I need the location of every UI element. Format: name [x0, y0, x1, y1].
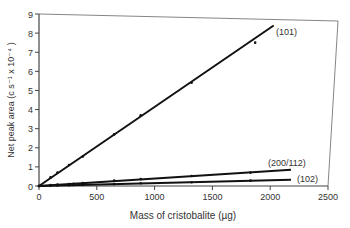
- x-tick-label: 2500: [318, 192, 338, 202]
- data-point: [56, 171, 59, 174]
- y-tick-label: 1: [28, 162, 33, 172]
- data-point: [82, 155, 85, 158]
- x-axis-label: Mass of cristobalite (µg): [130, 210, 236, 221]
- y-tick-label: 7: [28, 48, 33, 58]
- data-point: [113, 179, 116, 182]
- series-label-102: (102): [297, 174, 318, 184]
- y-tick-label: 3: [28, 124, 33, 134]
- x-axis-ticks: 05001000150020002500: [36, 186, 338, 202]
- data-point: [49, 176, 52, 179]
- series-label-200-112: (200/112): [268, 158, 306, 168]
- x-tick-label: 1500: [202, 192, 222, 202]
- series-group: [38, 25, 291, 187]
- data-point: [72, 184, 75, 187]
- data-point: [139, 178, 142, 181]
- data-point: [190, 82, 193, 85]
- data-point: [139, 114, 142, 117]
- data-point: [82, 184, 85, 187]
- data-point: [190, 175, 193, 178]
- data-point: [68, 164, 71, 167]
- data-point: [56, 184, 59, 187]
- data-point: [190, 181, 193, 184]
- right-frame: [328, 21, 338, 186]
- data-point: [254, 41, 257, 44]
- series-label-101: (101): [276, 27, 297, 37]
- data-point: [113, 183, 116, 186]
- top-frame: [39, 14, 338, 21]
- data-point: [68, 184, 71, 187]
- data-point: [113, 133, 116, 136]
- y-tick-label: 6: [28, 67, 33, 77]
- data-point: [249, 179, 252, 182]
- data-point: [38, 185, 41, 188]
- series-101: [38, 25, 274, 187]
- x-tick-label: 1000: [145, 192, 165, 202]
- x-tick-label: 0: [36, 192, 41, 202]
- y-axis-ticks: 0123456789: [28, 10, 39, 192]
- data-point: [249, 171, 252, 174]
- calibration-chart: 0123456789 05001000150020002500 (101) (2…: [0, 0, 350, 228]
- x-tick-label: 2000: [260, 192, 280, 202]
- y-tick-label: 0: [28, 182, 33, 192]
- fit-line: [39, 25, 274, 186]
- x-tick-label: 500: [89, 192, 104, 202]
- data-point: [49, 184, 52, 187]
- y-tick-label: 2: [28, 143, 33, 153]
- y-axis-label: Net peak area (c s⁻¹ x 10⁻⁴ ): [6, 42, 16, 157]
- data-point: [139, 182, 142, 185]
- y-tick-label: 4: [28, 105, 33, 115]
- y-tick-label: 5: [28, 86, 33, 96]
- y-tick-label: 8: [28, 29, 33, 39]
- y-tick-label: 9: [28, 10, 33, 20]
